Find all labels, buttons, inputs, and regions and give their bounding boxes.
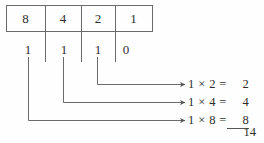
total-row: 14	[188, 124, 256, 140]
equation-expression-4s: 1 × 4 =	[188, 94, 227, 110]
equation-result-2s: 2	[227, 76, 249, 92]
place-value-1: 1	[115, 7, 152, 31]
total-value: 14	[234, 124, 256, 140]
equation-row-4s: 1 × 4 =4	[188, 94, 249, 110]
equation-expression-2s: 1 × 2 =	[188, 76, 227, 92]
connector-bit-8s	[29, 57, 186, 121]
place-value-8: 8	[6, 7, 45, 31]
place-value-2: 2	[81, 7, 115, 31]
bit-connector-lines	[29, 57, 186, 121]
bit-digit-1s: 0	[104, 41, 148, 59]
connector-bit-2s	[98, 57, 186, 85]
connector-bit-4s	[64, 57, 186, 103]
binary-place-value-diagram: 8 4 2 1 1 1 1 0 1 × 2 =2 1 × 4 =4 1 × 8 …	[0, 0, 264, 143]
equation-result-4s: 4	[227, 94, 249, 110]
equation-row-2s: 1 × 2 =2	[188, 76, 249, 92]
place-value-4: 4	[45, 7, 81, 31]
